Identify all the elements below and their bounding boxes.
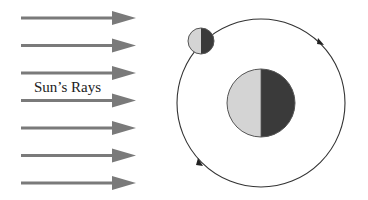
ray-shaft [21, 44, 114, 47]
ray-shaft [21, 182, 114, 185]
arrow-right-icon [112, 39, 136, 53]
orbit-direction-arrow-icon [317, 38, 324, 45]
sun-earth-moon-diagram: Sun’s Rays [0, 0, 368, 200]
arrow-right-icon [112, 149, 136, 163]
ray-shaft [21, 72, 114, 75]
ray-shaft [21, 17, 114, 20]
arrow-right-icon [112, 121, 136, 135]
arrow-right-icon [112, 66, 136, 80]
sun-ray-arrow [21, 39, 136, 53]
ray-shaft [21, 99, 114, 102]
arrow-right-icon [112, 94, 136, 108]
sun-ray-arrow [21, 11, 136, 25]
arrow-right-icon [112, 11, 136, 25]
sun-rays [21, 11, 136, 190]
ray-shaft [21, 154, 114, 157]
sun-ray-arrow [21, 66, 136, 80]
sun-ray-arrow [21, 121, 136, 135]
sun-ray-arrow [21, 149, 136, 163]
sun-rays-label: Sun’s Rays [34, 79, 101, 95]
sun-ray-arrow [21, 176, 136, 190]
ray-shaft [21, 127, 114, 130]
sun-ray-arrow [21, 94, 136, 108]
arrow-right-icon [112, 176, 136, 190]
earth [227, 69, 295, 137]
moon [188, 28, 214, 54]
